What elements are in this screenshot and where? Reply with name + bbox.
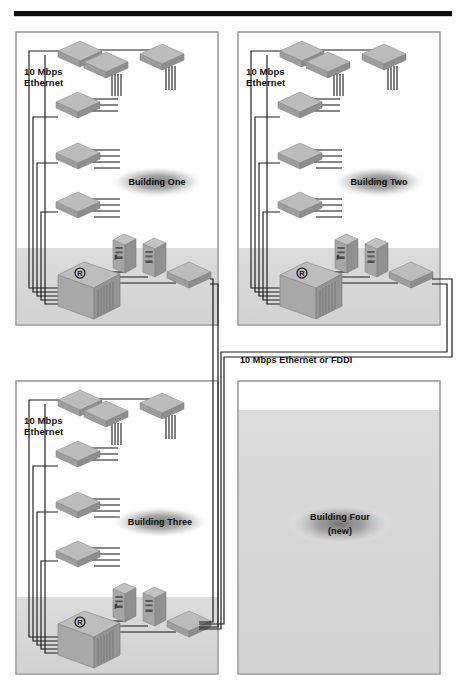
diagram-svg: R <box>0 0 465 691</box>
building-one-label: Building One <box>107 177 207 188</box>
building-four-sublabel: (new) <box>290 526 390 537</box>
building-three-link-label: 10 Mbps Ethernet <box>24 415 63 437</box>
backbone-link-label: 10 Mbps Ethernet or FDDI <box>240 355 352 366</box>
building-two-label: Building Two <box>329 177 429 188</box>
server-icon <box>113 583 136 622</box>
building-four-label-shadow <box>288 503 392 545</box>
building-three-label: Building Three <box>110 517 210 528</box>
server-icon <box>143 587 166 626</box>
server-icon <box>335 234 358 273</box>
server-icon <box>113 234 136 273</box>
building-four-label: Building Four <box>290 512 390 523</box>
building-two-link-label: 10 Mbps Ethernet <box>246 66 285 88</box>
top-rule <box>14 11 452 16</box>
server-icon <box>143 238 166 277</box>
building-one-link-label: 10 Mbps Ethernet <box>24 66 63 88</box>
network-diagram-canvas: R <box>0 0 465 691</box>
server-icon <box>365 238 388 277</box>
